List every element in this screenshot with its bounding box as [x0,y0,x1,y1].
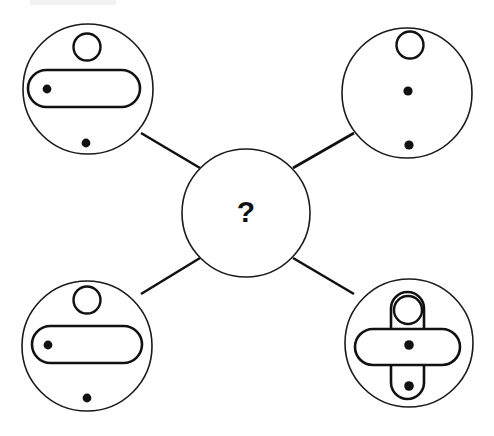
node-bottom-right-dot-bottom [404,381,414,391]
node-bottom-left-dot-left-in-pill [44,341,53,350]
connector-bottom-left [141,258,200,294]
node-top-left-small-circle-top [74,34,101,61]
connector-bottom-right [293,258,354,294]
node-bottom-right-small-circle-top [394,296,422,324]
connector-top-right [293,133,354,168]
node-top-right-dot-bottom [404,140,413,149]
node-bottom-left-dot-bottom [83,394,92,403]
scan-artifact-layer [30,0,116,5]
node-top-left-dot-left-in-pill [43,85,52,94]
node-bottom-left[interactable] [22,281,152,411]
center-node-group[interactable]: ? [182,149,310,277]
analogy-diagram: ? [0,0,494,436]
node-top-right-dot-center [403,86,412,95]
node-bottom-left-small-circle-top [74,287,101,314]
node-top-left-dot-bottom [82,139,91,148]
node-top-right-small-circle-top [397,32,424,59]
node-top-right[interactable] [342,28,472,158]
node-top-left[interactable] [23,24,153,154]
question-mark-label: ? [237,195,255,228]
node-bottom-right[interactable] [345,279,473,407]
node-bottom-right-dot-center [404,340,414,350]
connector-top-left [141,133,200,168]
puzzle-canvas: ? [0,0,494,436]
scan-smudge-top [30,0,116,5]
